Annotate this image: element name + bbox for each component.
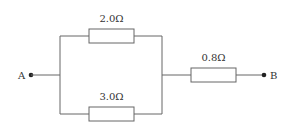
terminal-a-label: A [17, 70, 26, 81]
resistor-r1 [89, 29, 134, 43]
resistor-r3-label: 0.8Ω [201, 52, 225, 63]
terminal-b-dot [262, 73, 267, 78]
terminal-b-label: B [270, 70, 277, 81]
resistor-r1-label: 2.0Ω [99, 13, 123, 24]
resistor-r2 [89, 107, 134, 121]
resistor-r2-label: 3.0Ω [99, 91, 123, 102]
circuit-diagram: A 2.0Ω 3.0Ω 0.8Ω B [0, 0, 294, 126]
resistor-r3 [191, 68, 236, 82]
